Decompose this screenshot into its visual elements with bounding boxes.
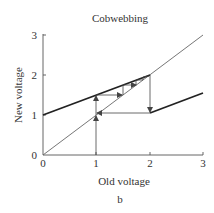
panel-label: b bbox=[117, 193, 123, 205]
svg-text:3: 3 bbox=[32, 29, 38, 41]
svg-text:2: 2 bbox=[147, 157, 153, 169]
x-axis-label: Old voltage bbox=[98, 175, 150, 187]
svg-text:2: 2 bbox=[32, 69, 38, 81]
map-branch-2 bbox=[150, 93, 203, 113]
svg-text:3: 3 bbox=[200, 157, 206, 169]
svg-text:0: 0 bbox=[40, 157, 46, 169]
y-axis-label: New voltage bbox=[12, 67, 24, 123]
cobweb-path bbox=[96, 75, 150, 155]
svg-text:1: 1 bbox=[93, 157, 99, 169]
x-tick-labels: 0 1 2 3 bbox=[40, 157, 206, 169]
y-tick-labels: 0 1 2 3 bbox=[32, 29, 38, 161]
svg-text:1: 1 bbox=[32, 109, 38, 121]
chart-title: Cobwebbing bbox=[92, 12, 149, 24]
svg-text:0: 0 bbox=[32, 149, 38, 161]
cobweb-chart: Cobwebbing 0 1 2 3 0 1 2 3 Old voltage N… bbox=[0, 0, 214, 213]
